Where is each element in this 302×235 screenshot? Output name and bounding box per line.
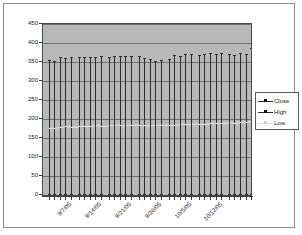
- high-low-bar: [169, 59, 170, 195]
- high-marker: [119, 56, 122, 57]
- high-marker: [94, 57, 97, 58]
- x-axis-tick: [191, 197, 192, 200]
- stock-chart: 450400350300250200150100500 9/7/059/14/0…: [4, 4, 294, 227]
- y-axis-tick: [39, 175, 42, 176]
- high-marker: [130, 56, 133, 57]
- close-series-point: [54, 127, 55, 128]
- high-marker: [83, 57, 86, 58]
- x-axis-tick: [155, 197, 156, 200]
- close-series-point: [109, 125, 110, 126]
- y-axis-tick: [39, 99, 42, 100]
- y-axis-tick: [39, 118, 42, 119]
- close-series-point: [199, 123, 200, 124]
- high-marker: [245, 54, 248, 55]
- close-series-point: [185, 123, 186, 124]
- close-series-point: [169, 124, 170, 125]
- low-series-point: [60, 127, 61, 128]
- high-marker: [209, 53, 212, 54]
- x-axis-tick: [229, 197, 230, 200]
- gridline: [43, 119, 251, 120]
- low-series-point: [71, 127, 72, 128]
- y-axis-tick-label: 150: [4, 134, 38, 141]
- close-series-point: [60, 126, 61, 127]
- x-axis-tick: [90, 197, 91, 200]
- high-marker: [173, 55, 176, 56]
- x-axis-tick: [101, 197, 102, 200]
- high-low-bar: [199, 55, 200, 195]
- close-series-point: [114, 125, 115, 126]
- high-marker: [154, 61, 157, 62]
- high-low-bar: [246, 54, 247, 195]
- x-axis-tick: [65, 197, 66, 200]
- x-axis-tick: [240, 197, 241, 200]
- x-axis-tick: [84, 197, 85, 200]
- x-axis-tick-label: 10/5/05: [171, 201, 192, 222]
- high-marker: [70, 57, 73, 58]
- gridline: [43, 62, 251, 63]
- low-series-point: [65, 126, 66, 127]
- x-axis-tick: [161, 197, 162, 200]
- x-axis-tick: [120, 197, 121, 200]
- chart-legend: Close High Low: [255, 92, 299, 130]
- low-series-point: [216, 123, 217, 124]
- legend-marker-high-icon: [258, 108, 273, 117]
- x-axis-tick: [49, 197, 50, 200]
- close-series-point: [221, 122, 222, 123]
- x-axis-tick: [60, 197, 61, 200]
- x-axis-tick: [114, 197, 115, 200]
- high-low-bar: [210, 53, 211, 195]
- high-low-bar: [144, 58, 145, 195]
- low-series-point: [185, 124, 186, 125]
- x-axis-tick: [139, 197, 140, 200]
- y-axis-tick-label: 450: [4, 20, 38, 27]
- high-low-bar: [251, 48, 252, 195]
- high-marker: [143, 58, 146, 59]
- y-axis-tick: [39, 23, 42, 24]
- low-series-point: [101, 126, 102, 127]
- high-low-bar: [229, 54, 230, 195]
- low-series-point: [84, 126, 85, 127]
- close-series-point: [150, 125, 151, 126]
- close-series-point: [204, 123, 205, 124]
- low-series-segment: [101, 125, 109, 126]
- y-axis-labels: 450400350300250200150100500: [4, 4, 38, 227]
- y-axis-tick-label: 50: [4, 172, 38, 179]
- low-series-point: [90, 126, 91, 127]
- close-series-point: [65, 125, 66, 126]
- close-series-point: [216, 122, 217, 123]
- x-axis-tick: [216, 197, 217, 200]
- low-series-point: [174, 125, 175, 126]
- high-marker: [203, 54, 206, 55]
- close-series-point: [90, 125, 91, 126]
- x-axis-tick: [95, 197, 96, 200]
- low-series-point: [169, 125, 170, 126]
- high-marker: [239, 53, 242, 54]
- high-marker: [138, 56, 141, 57]
- low-series-segment: [131, 125, 139, 126]
- high-marker: [184, 54, 187, 55]
- y-axis-tick-label: 100: [4, 153, 38, 160]
- close-series-point: [240, 121, 241, 122]
- low-series-segment: [221, 122, 229, 123]
- close-series-point: [125, 125, 126, 126]
- high-marker: [108, 57, 111, 58]
- high-marker: [59, 57, 62, 58]
- high-marker: [250, 48, 252, 49]
- high-marker: [89, 57, 92, 58]
- high-marker: [228, 54, 231, 55]
- close-series-point: [71, 126, 72, 127]
- low-series-point: [204, 124, 205, 125]
- high-marker: [160, 60, 163, 61]
- x-axis-tick: [210, 197, 211, 200]
- x-axis-tick: [204, 197, 205, 200]
- close-series-point: [210, 122, 211, 123]
- y-axis-tick-label: 200: [4, 115, 38, 122]
- x-axis-tick: [131, 197, 132, 200]
- low-series-point: [234, 123, 235, 124]
- x-axis-tick: [180, 197, 181, 200]
- x-axis-tick-label: 10/12/05: [202, 201, 223, 222]
- low-series-point: [144, 125, 145, 126]
- high-marker: [53, 61, 56, 62]
- high-low-bar: [155, 61, 156, 195]
- high-low-bar: [150, 59, 151, 195]
